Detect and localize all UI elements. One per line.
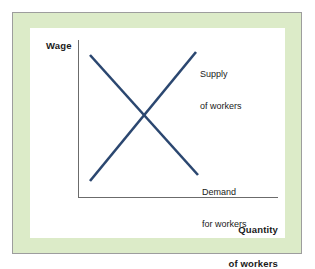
- supply-curve-label-line2: of workers: [200, 101, 242, 112]
- demand-curve: [90, 55, 198, 175]
- x-axis-label-line2: of workers: [186, 258, 278, 269]
- supply-curve-label: Supply of workers: [200, 48, 242, 133]
- x-axis-label: Quantity of workers: [186, 202, 278, 269]
- figure-root: Wage Supply of workers Demand for worker…: [0, 0, 315, 269]
- y-axis-label: Wage: [46, 40, 72, 51]
- x-axis-label-line1: Quantity: [186, 224, 278, 235]
- demand-curve-label-line1: Demand: [202, 187, 247, 198]
- supply-curve-label-line1: Supply: [200, 69, 242, 80]
